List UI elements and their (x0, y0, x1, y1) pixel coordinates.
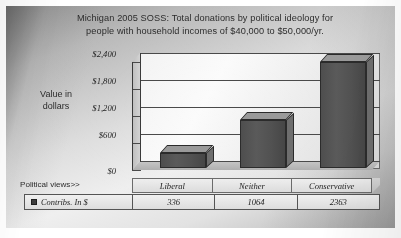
bar-neither-front (240, 120, 286, 168)
chart-title-line-1: Michigan 2005 SOSS: Total donations by p… (40, 12, 370, 25)
bar-liberal[interactable] (160, 153, 206, 168)
category-label-liberal: Liberal (133, 179, 213, 192)
y-tick-label-0: $0 (70, 166, 116, 176)
legend-series-contribs: Contribs. In $ (25, 195, 133, 209)
table-cell-neither: 1064 (215, 195, 297, 209)
chart-title: Michigan 2005 SOSS: Total donations by p… (40, 12, 370, 37)
bar-neither[interactable] (240, 120, 286, 168)
legend-swatch-icon (31, 199, 37, 205)
category-label-conservative: Conservative (292, 179, 371, 192)
x-axis-title: Political views>> (20, 180, 112, 189)
bar-neither-top (240, 112, 293, 120)
y-tick-label-2400: $2,400 (70, 49, 116, 59)
legend-series-label: Contribs. In $ (41, 198, 88, 207)
category-axis-band: Liberal Neither Conservative (132, 178, 380, 193)
bar-conservative-front (320, 62, 366, 168)
data-table: Contribs. In $ 336 1064 2363 (24, 194, 380, 210)
category-axis-3d-edge (372, 178, 381, 193)
table-cell-liberal: 336 (133, 195, 215, 209)
category-label-neither: Neither (213, 179, 293, 192)
scanned-chart-page: Michigan 2005 SOSS: Total donations by p… (0, 0, 401, 238)
y-tick-label-1800: $1,800 (70, 76, 116, 86)
chart-title-line-2: people with household incomes of $40,000… (40, 25, 370, 38)
y-axis-title-line-1: Value in (18, 88, 94, 100)
value-axis-line-back (140, 53, 141, 162)
bar-liberal-top (160, 145, 213, 153)
y-tick-label-600: $600 (70, 130, 116, 140)
plot-area (132, 53, 380, 177)
bar-neither-side (286, 113, 294, 168)
chart-area: Michigan 2005 SOSS: Total donations by p… (12, 8, 388, 214)
y-tick-label-1200: $1,200 (70, 103, 116, 113)
category-axis-cells: Liberal Neither Conservative (132, 178, 372, 193)
table-cell-conservative: 2363 (298, 195, 379, 209)
bar-conservative-top (320, 54, 373, 62)
value-axis-line-front (132, 62, 133, 170)
bar-conservative[interactable] (320, 62, 366, 168)
bar-liberal-front (160, 153, 206, 168)
bar-conservative-side (366, 55, 374, 168)
